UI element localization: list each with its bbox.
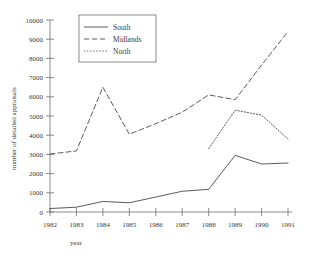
y-tick-label: 4000: [29, 132, 44, 140]
y-tick-label: 7000: [29, 74, 44, 82]
y-tick-label: 3000: [29, 151, 44, 159]
legend-label-north: North: [113, 47, 131, 56]
x-axis-ticks: 1982 1983 1984 1985 1986 1987: [43, 208, 296, 229]
chart-figure: 0 1000 2000 3000 4000 5000: [0, 0, 313, 262]
legend-label-south: South: [113, 23, 131, 32]
x-tick-label: 1990: [255, 221, 270, 229]
x-tick-label: 1984: [96, 221, 111, 229]
x-tick-label: 1982: [43, 221, 58, 229]
legend-label-midlands: Midlands: [113, 35, 141, 44]
x-tick-label: 1987: [175, 221, 190, 229]
y-tick-label: 5000: [29, 113, 44, 121]
series-line-north: [209, 110, 288, 148]
y-tick-label: 0: [40, 209, 44, 217]
y-tick-label: 1000: [29, 189, 44, 197]
x-axis-title: year: [70, 239, 83, 247]
x-tick-label: 1986: [149, 221, 164, 229]
line-chart-canvas: 0 1000 2000 3000 4000 5000: [0, 0, 313, 262]
y-tick-label: 8000: [29, 55, 44, 63]
chart-legend: South Midlands North: [79, 15, 156, 62]
x-tick-label: 1985: [122, 221, 137, 229]
y-tick-label: 10000: [26, 17, 44, 25]
y-axis-title: number of detailed appraisals: [10, 87, 18, 170]
x-tick-label: 1989: [228, 221, 243, 229]
series-line-south: [50, 155, 288, 208]
y-tick-label: 9000: [29, 36, 44, 44]
x-tick-label: 1983: [69, 221, 84, 229]
x-tick-label: 1988: [202, 221, 217, 229]
x-tick-label: 1991: [281, 221, 296, 229]
y-tick-label: 2000: [29, 170, 44, 178]
y-tick-label: 6000: [29, 93, 44, 101]
